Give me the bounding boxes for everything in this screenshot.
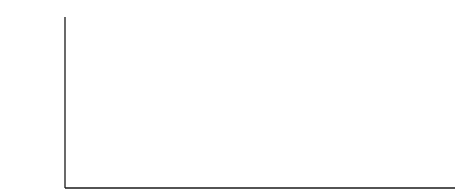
chart-area [0, 0, 472, 194]
